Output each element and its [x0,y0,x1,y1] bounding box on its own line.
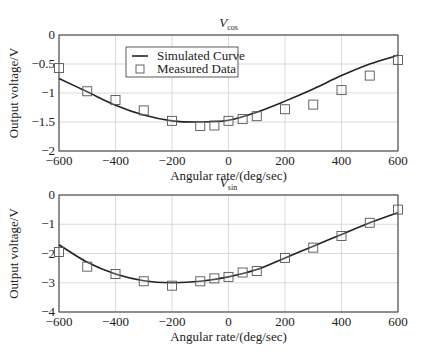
measured-data-marker [365,218,374,227]
y-tick-label: −1 [41,85,55,100]
measured-data-marker [196,122,205,131]
x-tick-label: 400 [332,314,352,329]
x-tick-label: 200 [275,153,295,168]
x-axis-label: Angular rate/(deg/sec) [170,329,287,344]
measured-data-marker [309,100,318,109]
x-axis-label: Angular rate/(deg/sec) [170,168,287,183]
measured-data-marker [309,243,318,252]
measured-data-marker [196,277,205,286]
y-tick-label: −2 [41,143,55,158]
measured-data-marker [394,205,403,214]
y-tick-label: 0 [49,187,56,202]
y-tick-label: 0 [49,27,56,42]
chart-figure: −600−400−20002004006000−0.5−1−1.5−2VcosA… [0,0,424,359]
measured-data-marker [139,277,148,286]
plot-cos: −600−400−20002004006000−0.5−1−1.5−2VcosA… [6,15,408,183]
measured-data-marker [83,87,92,96]
measured-data-marker [252,112,261,121]
measured-data-marker [168,116,177,125]
legend: Simulated CurveMeasured Data [126,47,245,77]
measured-data-marker [394,55,403,64]
y-tick-label: −2 [41,246,55,261]
y-tick-label: −0.5 [31,56,55,71]
measured-data-marker [168,281,177,290]
measured-data-marker [337,231,346,240]
y-tick-label: −1 [41,216,55,231]
measured-data-marker [281,253,290,262]
y-tick-label: −1.5 [31,114,55,129]
y-axis-label: Output voltage/V [6,47,21,138]
measured-data-marker [210,274,219,283]
measured-data-marker [111,95,120,104]
x-tick-label: −200 [159,314,186,329]
measured-data-marker [238,115,247,124]
plot-title: Vcos [219,15,238,32]
measured-data-marker [238,268,247,277]
x-tick-label: 0 [225,314,232,329]
x-tick-label: −200 [159,153,186,168]
plot-sin: −600−400−20002004006000−1−2−3−4VsinAngul… [6,175,408,344]
x-tick-label: 600 [388,153,408,168]
measured-data-marker [55,64,64,73]
measured-data-marker [55,248,64,257]
measured-data-marker [139,106,148,115]
x-tick-label: −400 [102,153,129,168]
measured-data-marker [252,267,261,276]
measured-data-marker [281,105,290,114]
y-axis-label: Output voltage/V [6,208,21,299]
measured-data-marker [365,71,374,80]
measured-data-marker [337,86,346,95]
y-tick-label: −4 [41,304,55,319]
x-tick-label: 600 [388,314,408,329]
measured-data-marker [224,272,233,281]
x-tick-label: 0 [225,153,232,168]
measured-data-marker [210,121,219,130]
y-tick-label: −3 [41,275,55,290]
x-tick-label: −400 [102,314,129,329]
legend-label-measured: Measured Data [157,61,236,76]
x-tick-label: 400 [332,153,352,168]
measured-data-marker [224,116,233,125]
measured-data-marker [111,269,120,278]
measured-data-marker [83,262,92,271]
x-tick-label: 200 [275,314,295,329]
